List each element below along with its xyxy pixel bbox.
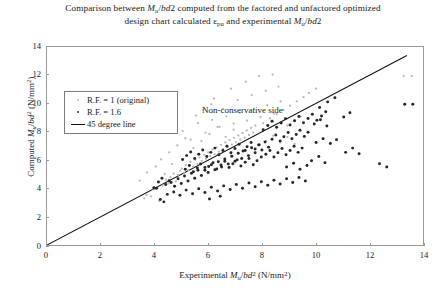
chart-title-line-1: Comparison between Mu/bd2 computed from … xyxy=(28,3,418,16)
x-tick-label: 0 xyxy=(34,250,58,260)
data-point xyxy=(274,133,277,136)
data-point xyxy=(315,141,318,144)
data-point xyxy=(310,159,313,162)
data-point xyxy=(236,158,239,161)
y-tick-label: 8 xyxy=(19,126,41,136)
data-point xyxy=(299,168,302,171)
data-point xyxy=(293,143,295,145)
data-point xyxy=(242,149,245,152)
data-point xyxy=(229,188,232,191)
data-point xyxy=(259,116,261,118)
data-point xyxy=(286,124,288,126)
data-point xyxy=(237,134,239,136)
data-point xyxy=(237,152,240,155)
data-point xyxy=(264,141,267,144)
data-point xyxy=(241,187,244,190)
legend: R.F. = 1 (original) R.F. = 1.6 45 degree… xyxy=(64,91,178,134)
data-point xyxy=(348,111,351,114)
epsilon-subscript: pu xyxy=(217,20,224,27)
data-point xyxy=(225,145,228,148)
data-point xyxy=(344,151,347,154)
data-point xyxy=(177,177,180,180)
x-tick-mark xyxy=(46,243,47,246)
data-point xyxy=(203,169,206,172)
data-point xyxy=(196,163,198,165)
x-axis-title: Experimental Mu/bd2 (N/mm2) xyxy=(46,270,424,281)
data-point xyxy=(250,127,252,129)
data-point xyxy=(260,148,263,151)
annotation-conservative-side: Conservative side xyxy=(347,243,411,246)
data-point xyxy=(201,160,203,162)
y-tick-label: 4 xyxy=(19,183,41,193)
data-point xyxy=(225,115,227,117)
data-point xyxy=(262,128,265,131)
data-point xyxy=(246,119,248,121)
chart-title: Comparison between Mu/bd2 computed from … xyxy=(28,3,418,29)
data-point xyxy=(238,143,241,146)
data-point xyxy=(378,162,381,165)
bd-symbol: bd xyxy=(307,16,316,26)
data-point xyxy=(297,115,300,118)
y-tick-mark xyxy=(46,160,49,161)
data-point xyxy=(307,117,310,120)
data-point xyxy=(219,195,222,198)
data-point xyxy=(317,155,320,158)
data-point xyxy=(168,179,171,182)
data-point xyxy=(301,147,304,150)
data-point xyxy=(173,185,176,188)
data-point xyxy=(230,155,233,158)
legend-marker-dot-light xyxy=(70,99,86,101)
x-tick-mark xyxy=(208,243,209,246)
data-point xyxy=(291,181,294,184)
y-tick-label: 12 xyxy=(19,69,41,79)
annotation-non-conservative-side: Non-conservative side xyxy=(202,105,283,115)
data-point xyxy=(351,147,354,150)
data-point xyxy=(247,157,250,160)
data-point xyxy=(289,105,291,107)
data-point xyxy=(264,153,267,156)
data-point xyxy=(280,122,283,125)
data-point xyxy=(155,187,158,190)
data-point xyxy=(304,180,307,183)
data-point xyxy=(266,124,269,127)
data-point xyxy=(187,180,190,183)
data-point xyxy=(302,121,305,124)
data-point xyxy=(335,138,338,141)
data-point xyxy=(199,163,202,166)
data-point xyxy=(221,149,224,152)
data-point xyxy=(252,163,255,166)
data-point xyxy=(385,165,388,168)
data-point xyxy=(228,166,231,169)
data-point xyxy=(207,151,209,153)
data-point xyxy=(162,200,165,203)
data-point xyxy=(198,156,200,158)
data-point xyxy=(150,195,152,197)
figure-container: Comparison between Mu/bd2 computed from … xyxy=(0,0,446,297)
data-point xyxy=(192,170,195,173)
data-point xyxy=(204,131,206,133)
legend-label-rf1: R.F. = 1 (original) xyxy=(86,95,149,105)
data-point xyxy=(190,161,192,163)
data-point xyxy=(290,137,293,140)
data-point xyxy=(271,73,273,75)
data-point xyxy=(160,158,162,160)
data-point xyxy=(224,141,226,143)
data-point xyxy=(203,166,206,169)
data-point xyxy=(308,92,310,94)
data-point xyxy=(207,171,210,174)
data-point xyxy=(181,130,183,132)
data-point xyxy=(200,174,203,177)
data-point xyxy=(220,164,223,167)
data-point xyxy=(167,182,169,184)
data-point xyxy=(267,146,270,149)
data-point xyxy=(272,179,275,182)
x-tick-label: 10 xyxy=(304,250,328,260)
data-point xyxy=(244,136,246,138)
data-point xyxy=(181,167,183,169)
data-point xyxy=(276,151,279,154)
y-tick-label: 14 xyxy=(19,41,41,51)
data-point xyxy=(213,147,216,150)
series-points-rf1 xyxy=(139,73,413,202)
data-point xyxy=(319,118,322,121)
data-point xyxy=(223,160,226,163)
